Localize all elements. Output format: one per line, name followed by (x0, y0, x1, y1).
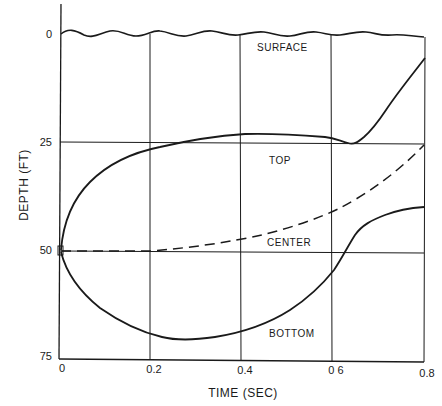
grid-x-0.4 (240, 34, 241, 361)
y-axis-label: DEPTH (FT) (17, 149, 31, 221)
center-curve (61, 145, 424, 251)
top-label: TOP (269, 155, 291, 166)
bottom-curve (61, 207, 424, 340)
grid-y-25 (60, 142, 424, 144)
grid-x-0.6 (331, 34, 332, 361)
y-axis (59, 4, 61, 359)
center-label: CENTER (267, 237, 311, 248)
depth-time-chart: 0 25 50 75 0 0.2 0.4 0 6 0.8 TIME (SEC) … (0, 0, 442, 406)
y-tick-50: 50 (40, 244, 52, 256)
x-axis (59, 359, 424, 362)
x-tick-0.6: 0 6 (328, 364, 343, 376)
y-tick-25: 25 (40, 136, 52, 148)
x-tick-0.2: 0.2 (146, 363, 161, 375)
x-axis-label: TIME (SEC) (208, 386, 278, 400)
x-tick-0: 0 (59, 362, 65, 374)
x-tick-0.8: 0.8 (419, 367, 434, 379)
x-tick-0.4: 0.4 (237, 364, 252, 376)
y-tick-75: 75 (40, 350, 52, 362)
grid-x-0.8 (424, 37, 425, 362)
surface-line (61, 30, 424, 37)
y-tick-0: 0 (46, 28, 52, 40)
surface-label: SURFACE (257, 42, 308, 53)
bottom-label: BOTTOM (269, 328, 315, 339)
